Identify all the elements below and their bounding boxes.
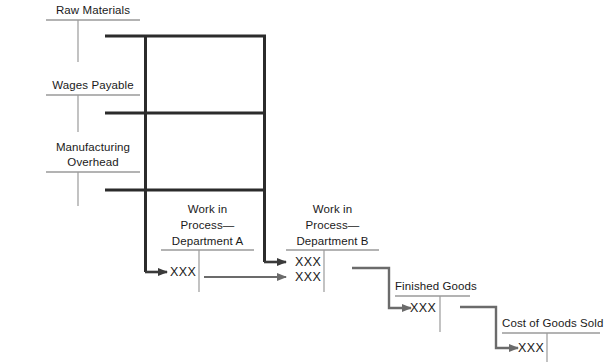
raw-materials-label: Raw Materials [46, 3, 140, 18]
cost-of-goods-sold-debit-amount: XXX [518, 341, 544, 355]
wages-payable-label: Wages Payable [46, 78, 140, 93]
raw-materials-t-account [46, 20, 140, 62]
wip-dept-b-debit-amount-2: XXX [295, 270, 321, 284]
wip-dept-b-label-line3: Department B [283, 234, 382, 249]
diagram-lines [0, 0, 610, 362]
finished-goods-label: Finished Goods [395, 279, 470, 294]
cost-flow-diagram: Raw Materials Wages Payable Manufacturin… [0, 0, 610, 362]
wip-dept-b-label-line2: Process— [286, 218, 379, 233]
wip-dept-a-debit-amount: XXX [170, 265, 196, 279]
manufacturing-overhead-label-line2: Overhead [40, 155, 146, 170]
wip-dept-b-label-line1: Work in [286, 202, 379, 217]
cost-of-goods-sold-label: Cost of Goods Sold [502, 316, 600, 331]
wip-dept-b-debit-amount-1: XXX [295, 255, 321, 269]
manufacturing-overhead-label-line1: Manufacturing [40, 140, 146, 155]
wip-dept-a-label-line3: Department A [158, 234, 257, 249]
finished-goods-debit-amount: XXX [410, 301, 436, 315]
wip-dept-a-label-line2: Process— [161, 218, 254, 233]
wip-dept-a-label-line1: Work in [161, 202, 254, 217]
